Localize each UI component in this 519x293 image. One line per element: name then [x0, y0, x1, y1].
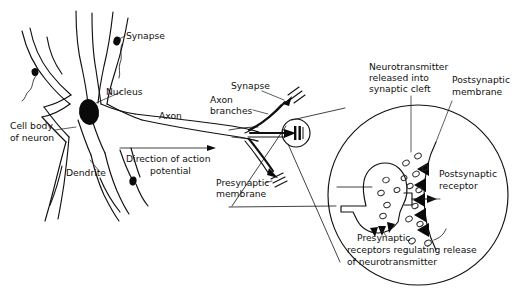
- presynaptic-vesicles: [377, 176, 401, 219]
- label-cell-body-line1: Cell body: [10, 120, 53, 131]
- label-direction-line1: Direction of action: [126, 153, 211, 164]
- neuron-cell-body-group: [22, 11, 148, 221]
- nucleus-shape: [77, 98, 100, 127]
- label-nucleus: Nucleus: [106, 86, 143, 97]
- label-dendrite: Dendrite: [66, 167, 106, 178]
- label-axon: Axon: [159, 110, 182, 121]
- label-direction-line2: potential: [150, 165, 191, 176]
- label-presynaptic-membrane-line1: Presynaptic: [216, 177, 269, 188]
- label-neurotransmitter-line3: synaptic cleft: [369, 83, 431, 94]
- label-synapse-top: Synapse: [126, 30, 165, 41]
- label-synapse-mid: Synapse: [231, 80, 270, 91]
- label-postsynaptic-receptor-line1: Postsynaptic: [439, 168, 497, 179]
- neuron-synapse-diagram: Synapse Nucleus Cell body of neuron Dend…: [0, 0, 519, 293]
- action-potential-arrow: [120, 145, 216, 151]
- label-presynaptic-receptors-line3: of neurotransmitter: [347, 256, 437, 267]
- label-postsynaptic-membrane-line2: membrane: [452, 86, 503, 97]
- label-presynaptic-membrane-line2: membrane: [216, 188, 267, 199]
- label-axon-branches-line2: branches: [210, 105, 253, 116]
- label-cell-body-line2: of neuron: [10, 132, 54, 143]
- label-postsynaptic-receptor-line2: receptor: [439, 180, 478, 191]
- label-postsynaptic-membrane-line1: Postsynaptic: [452, 74, 510, 85]
- label-axon-branches-line1: Axon: [210, 94, 233, 105]
- diagram-labels: Synapse Nucleus Cell body of neuron Dend…: [10, 30, 510, 267]
- label-neurotransmitter-line2: released into: [369, 72, 429, 83]
- label-neurotransmitter-line1: Neurotransmitter: [369, 61, 449, 72]
- label-presynaptic-receptors-line1: Presynaptic: [357, 232, 410, 243]
- label-presynaptic-receptors-line2: receptors regulating release: [347, 244, 477, 255]
